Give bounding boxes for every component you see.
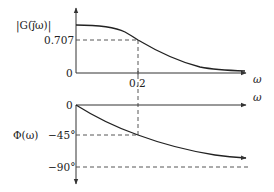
phase-plot xyxy=(76,105,248,184)
frequency-tick-label: 0.2 xyxy=(129,78,146,89)
magnitude-curve xyxy=(76,25,245,71)
tick-label-0707: 0.707 xyxy=(44,35,74,46)
magnitude-x-axis-label: ω xyxy=(253,74,262,85)
phase-axis-label: Φ(ω) xyxy=(13,130,38,141)
phase-x-axis-label: ω xyxy=(253,92,262,103)
phase-curve xyxy=(76,105,246,158)
tick-label-minus-90: −90° xyxy=(48,162,75,173)
magnitude-plot xyxy=(76,8,246,75)
magnitude-axis-label: |G(j⃗ω)| xyxy=(16,20,51,31)
tick-label-minus-45: −45° xyxy=(48,130,75,141)
phase-tick-label-0: 0 xyxy=(66,100,73,111)
magnitude-tick-label-0: 0 xyxy=(66,68,73,79)
